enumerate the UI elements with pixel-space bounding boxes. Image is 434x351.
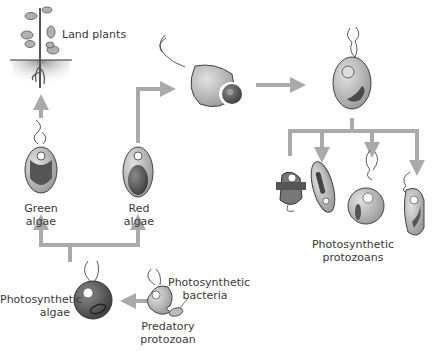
label-line: Red bbox=[110, 202, 168, 215]
label-line: Photosynthetic bbox=[310, 238, 396, 251]
label-land-plants: Land plants bbox=[62, 28, 126, 41]
label-line: bacteria bbox=[168, 289, 242, 302]
label-line: algae bbox=[0, 306, 70, 319]
label-line: Photosynthetic bbox=[0, 293, 70, 306]
photosynthetic-algae-cell bbox=[74, 261, 112, 319]
label-line: algae bbox=[110, 215, 168, 228]
red-algae-cell bbox=[123, 147, 153, 197]
label-line: protozoan bbox=[130, 333, 206, 346]
bean-flagellate-cell bbox=[403, 172, 424, 235]
photosynthetic-bacterium bbox=[168, 306, 184, 317]
label-photosynthetic-bacteria: Photosynthetic bacteria bbox=[168, 276, 242, 302]
label-line: Predatory bbox=[130, 320, 206, 333]
label-predatory-protozoan: Predatory protozoan bbox=[130, 320, 206, 346]
euglenid-cell bbox=[307, 159, 340, 214]
green-algae-cell bbox=[25, 120, 57, 193]
label-photosynthetic-protozoans: Photosynthetic protozoans bbox=[310, 238, 396, 264]
round-flagellate-cell bbox=[348, 150, 384, 224]
dinoflagellate-cell bbox=[276, 172, 306, 211]
label-line: Photosynthetic bbox=[168, 276, 242, 289]
label-red-algae: Red algae bbox=[110, 202, 168, 228]
label-line: Green bbox=[12, 202, 70, 215]
label-photosynthetic-algae: Photosynthetic algae bbox=[0, 293, 70, 319]
secondary-endosymbiont-cell bbox=[333, 27, 371, 109]
land-plant-icon bbox=[10, 7, 72, 92]
engulfing-protozoan-cell bbox=[160, 35, 243, 107]
label-line: algae bbox=[12, 215, 70, 228]
label-green-algae: Green algae bbox=[12, 202, 70, 228]
label-line: protozoans bbox=[310, 251, 396, 264]
